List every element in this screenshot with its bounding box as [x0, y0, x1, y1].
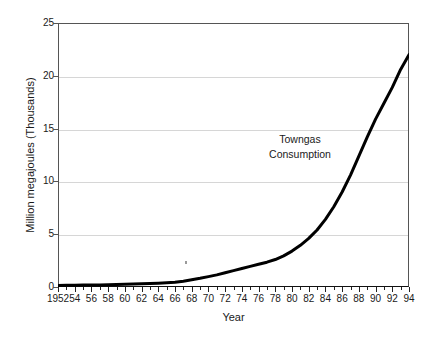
x-tick-label-1964: 64	[153, 293, 164, 304]
x-tick-mark-1988	[359, 287, 360, 292]
x-tick-label-1968: 68	[186, 293, 197, 304]
x-tick-mark-1969	[200, 287, 201, 290]
x-tick-mark-1989	[367, 287, 368, 290]
x-tick-mark-1959	[117, 287, 118, 290]
x-tick-mark-1967	[183, 287, 184, 290]
x-tick-label-1962: 62	[136, 293, 147, 304]
y-tick-label-0: 0	[32, 281, 54, 292]
x-tick-mark-1990	[376, 287, 377, 292]
x-tick-mark-1964	[158, 287, 159, 292]
x-tick-label-1958: 58	[103, 293, 114, 304]
x-tick-label-1984: 84	[320, 293, 331, 304]
x-tick-mark-1954	[75, 287, 76, 292]
series-annotation-line1: Towngas	[240, 132, 360, 147]
x-tick-mark-1978	[275, 287, 276, 292]
x-tick-mark-1976	[259, 287, 260, 292]
x-tick-mark-1960	[125, 287, 126, 292]
y-axis-tick-labels: 0510152025	[26, 23, 54, 287]
x-tick-mark-1958	[108, 287, 109, 292]
x-tick-mark-1994	[409, 287, 410, 292]
y-tick-label-15: 15	[32, 123, 54, 134]
x-tick-label-1992: 92	[387, 293, 398, 304]
x-tick-mark-1972	[225, 287, 226, 292]
x-axis-tick-labels: 1952545658606264666870727476788082848688…	[0, 293, 432, 307]
series-annotation-line2: Consumption	[240, 147, 360, 162]
x-tick-mark-1985	[334, 287, 335, 290]
x-tick-mark-1963	[150, 287, 151, 290]
x-tick-label-1988: 88	[353, 293, 364, 304]
x-tick-label-1970: 70	[203, 293, 214, 304]
x-tick-label-1994: 94	[403, 293, 414, 304]
chart-figure: Million megajoules (Thousands) 051015202…	[0, 0, 432, 343]
x-tick-label-1974: 74	[236, 293, 247, 304]
x-tick-label-1956: 56	[86, 293, 97, 304]
x-tick-mark-1953	[66, 287, 67, 290]
x-tick-mark-1961	[133, 287, 134, 290]
x-tick-mark-1955	[83, 287, 84, 290]
x-axis-title: Year	[58, 311, 409, 323]
x-tick-mark-1970	[208, 287, 209, 292]
x-tick-label-1980: 80	[286, 293, 297, 304]
x-tick-mark-1979	[284, 287, 285, 290]
x-tick-mark-1992	[392, 287, 393, 292]
image-speck-artifact	[185, 261, 187, 264]
x-tick-mark-1981	[300, 287, 301, 290]
x-tick-mark-1991	[384, 287, 385, 290]
x-tick-label-1982: 82	[303, 293, 314, 304]
x-tick-mark-1983	[317, 287, 318, 290]
x-tick-mark-1993	[401, 287, 402, 290]
x-tick-label-1972: 72	[220, 293, 231, 304]
y-tick-label-25: 25	[32, 17, 54, 28]
x-tick-mark-1966	[175, 287, 176, 292]
x-tick-mark-1974	[242, 287, 243, 292]
x-tick-mark-1952	[58, 287, 59, 292]
x-tick-mark-1962	[142, 287, 143, 292]
x-tick-mark-1977	[267, 287, 268, 290]
x-tick-mark-1965	[167, 287, 168, 290]
series-annotation: Towngas Consumption	[240, 132, 360, 162]
x-tick-mark-1982	[309, 287, 310, 292]
x-tick-label-1954: 54	[69, 293, 80, 304]
x-tick-mark-1968	[192, 287, 193, 292]
y-tick-label-10: 10	[32, 175, 54, 186]
y-tick-label-20: 20	[32, 70, 54, 81]
x-tick-mark-1971	[217, 287, 218, 290]
series-line-towngas-consumption	[58, 55, 409, 286]
x-tick-label-1978: 78	[270, 293, 281, 304]
x-tick-label-1960: 60	[119, 293, 130, 304]
x-tick-mark-1986	[342, 287, 343, 292]
x-tick-mark-1956	[91, 287, 92, 292]
x-tick-mark-1984	[325, 287, 326, 292]
x-tick-label-1990: 90	[370, 293, 381, 304]
x-tick-mark-1957	[100, 287, 101, 290]
x-tick-label-1986: 86	[337, 293, 348, 304]
x-tick-label-1966: 66	[169, 293, 180, 304]
x-tick-mark-1975	[250, 287, 251, 290]
x-tick-mark-1980	[292, 287, 293, 292]
x-tick-label-1952: 1952	[47, 293, 69, 304]
x-tick-mark-1973	[234, 287, 235, 290]
x-tick-mark-1987	[351, 287, 352, 290]
x-tick-label-1976: 76	[253, 293, 264, 304]
y-tick-label-5: 5	[32, 228, 54, 239]
